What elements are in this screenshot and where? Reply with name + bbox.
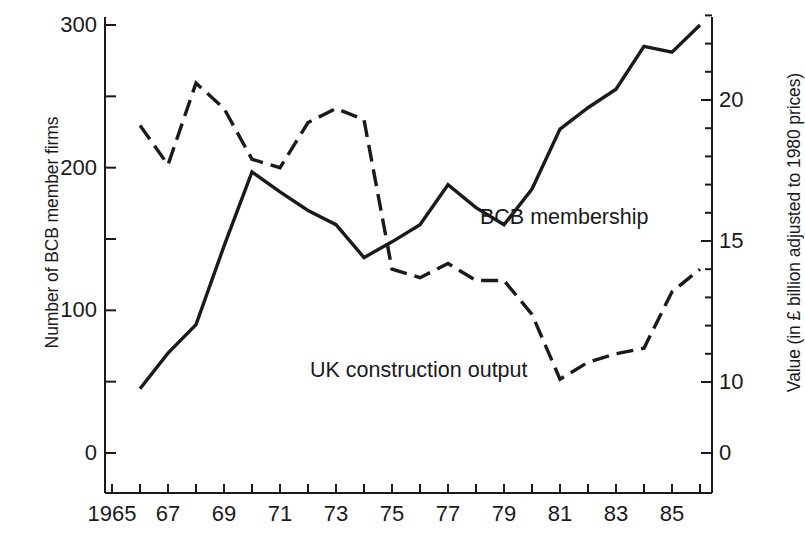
- x-axis-tick-label: 79: [492, 501, 516, 526]
- y-axis-right-tick-label: 20: [719, 87, 743, 112]
- y-axis-left-tick-label: 300: [60, 12, 97, 37]
- x-axis-tick-label: 71: [268, 501, 292, 526]
- x-axis-tick-label: 1965: [88, 501, 137, 526]
- x-axis-tick-label: 85: [660, 501, 684, 526]
- x-axis-tick-labels: 196567697173757779818385: [88, 501, 685, 526]
- y-axis-left-tick-labels: 0100200300: [60, 12, 97, 465]
- y-axis-left-tick-label: 200: [60, 155, 97, 180]
- y-axis-right-tick-label: 0: [719, 440, 731, 465]
- series-annotation-labels: BCB membershipUK construction output: [310, 205, 649, 382]
- x-axis-tick-label: 77: [436, 501, 460, 526]
- y-axis-left-tick-label: 100: [60, 297, 97, 322]
- x-axis-tick-label: 67: [156, 501, 180, 526]
- x-axis-ticks: [112, 484, 700, 493]
- x-axis-tick-label: 75: [380, 501, 404, 526]
- y-axis-left-tick-label: 0: [85, 440, 97, 465]
- y-axis-right-tick-labels: 0101520: [719, 87, 743, 465]
- x-axis-tick-label: 81: [548, 501, 572, 526]
- series-line-uk-construction-output: [140, 83, 700, 379]
- y-axis-right-ticks: [701, 15, 712, 453]
- x-axis-tick-label: 73: [324, 501, 348, 526]
- y-axis-right-tick-label: 10: [719, 369, 743, 394]
- axis-frame: [105, 17, 712, 493]
- annotation-bcb-membership: BCB membership: [480, 205, 649, 229]
- y-axis-left-ticks: [105, 25, 116, 453]
- x-axis-tick-label: 83: [604, 501, 628, 526]
- y-axis-right-tick-label: 15: [719, 228, 743, 253]
- x-axis-tick-label: 69: [212, 501, 236, 526]
- annotation-uk-construction-output: UK construction output: [310, 358, 528, 382]
